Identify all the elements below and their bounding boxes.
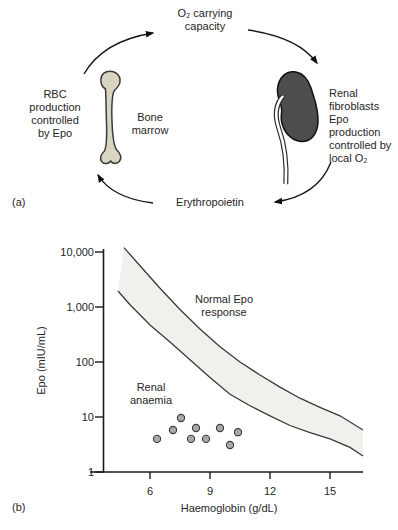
cycle-arrow-top-right [248,30,317,63]
y-axis-title: Epo (mIU/mL) [35,300,50,422]
y-tick-label: 1 [88,466,94,478]
scatter-point [153,435,160,442]
cycle-label-renal-fibroblasts: Renal fibroblasts Epo production control… [329,87,397,165]
bone-marrow-label: Bone marrow [126,111,174,137]
normal-band-fill [118,248,363,456]
scatter-point [177,414,184,421]
cycle-label-o2-capacity: O₂ carrying capacity [158,7,252,33]
scatter-point [187,435,194,442]
scatter-point [192,424,199,431]
epo-chart: 1101001,00010,000691215 [60,246,363,497]
scatter-point [234,429,241,436]
panel-a-label: (a) [12,196,25,209]
annotation-renal-anaemia: Renal anaemia [111,381,191,407]
bone-icon [101,71,121,163]
cycle-label-rbc-production: RBC production controlled by Epo [12,88,98,140]
y-tick-label: 100 [76,356,94,368]
cycle-arrow-top-left [84,33,153,74]
scatter-point [169,426,176,433]
x-tick-label: 15 [324,485,336,497]
x-tick-label: 9 [207,485,213,497]
cycle-arrow-bottom-left [98,175,153,203]
x-tick-label: 6 [147,485,153,497]
panel-b-label: (b) [12,501,25,514]
figure-graphics: 1101001,00010,000691215 [0,0,398,530]
y-tick-label: 10,000 [60,246,94,258]
cycle-label-erythropoietin: Erythropoietin [162,196,258,209]
kidney-icon [276,72,318,184]
scatter-point [202,435,209,442]
y-tick-label: 1,000 [66,301,94,313]
x-axis-title: Haemoglobin (g/dL) [154,502,304,515]
annotation-normal-epo-response: Normal Epo response [164,293,284,319]
scatter-point [226,441,233,448]
y-tick-label: 10 [82,411,94,423]
x-tick-label: 12 [264,485,276,497]
scatter-point [216,424,223,431]
figure: 1101001,00010,000691215 O₂ carrying capa… [0,0,398,530]
